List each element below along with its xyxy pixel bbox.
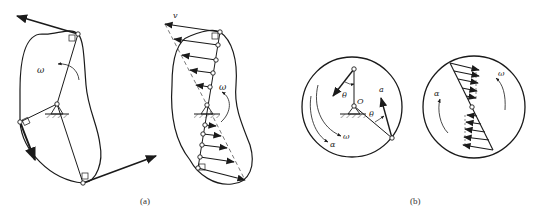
pin xyxy=(203,123,207,127)
acceleration-arrow xyxy=(458,79,478,83)
alpha-arrow xyxy=(310,96,328,142)
velocity-arrow-top xyxy=(17,16,78,34)
omega-label: ω xyxy=(343,132,350,141)
pin xyxy=(76,32,80,36)
kinematics-figure: ω v ω xyxy=(0,0,535,216)
panel-b-right-disk: ω α xyxy=(423,56,525,158)
omega-label: ω xyxy=(37,65,45,75)
velocity-arrow-bottom xyxy=(83,156,156,183)
alpha-arrow xyxy=(439,99,448,133)
acceleration-label: a xyxy=(379,85,384,94)
rigid-body-outline xyxy=(20,31,101,183)
pin xyxy=(81,181,85,185)
acceleration-arrow xyxy=(464,137,489,140)
pin xyxy=(196,166,200,170)
pin xyxy=(198,155,202,159)
pin xyxy=(216,43,220,47)
omega-arrow xyxy=(316,85,341,136)
pin xyxy=(18,120,22,124)
pin xyxy=(390,136,394,140)
figure-canvas: ω v ω xyxy=(0,0,535,216)
velocity-arrow xyxy=(200,157,234,162)
omega-arrow xyxy=(496,78,505,110)
radius-line-top xyxy=(57,34,78,104)
body-axis-line xyxy=(198,32,220,168)
pin xyxy=(352,67,356,71)
velocity-arrow xyxy=(182,55,216,60)
right-angle-mark xyxy=(69,35,75,41)
acceleration-arrow xyxy=(454,71,479,76)
theta-label-2: θ xyxy=(369,110,374,119)
velocity-arrow xyxy=(190,70,213,73)
acceleration-arrow xyxy=(463,145,493,150)
caption-b: (b) xyxy=(410,196,421,206)
velocity-arrow-left xyxy=(21,124,35,160)
pin xyxy=(211,71,215,75)
theta-arc xyxy=(345,82,354,84)
pin xyxy=(208,85,212,89)
pin xyxy=(214,58,218,62)
alpha-label: α xyxy=(330,140,336,149)
pin xyxy=(352,104,356,108)
acceleration-arrow xyxy=(462,88,477,91)
pin xyxy=(201,132,205,136)
acceleration-arrow-a xyxy=(381,98,392,138)
velocity-arrow xyxy=(202,145,227,148)
rigid-body-outline xyxy=(172,30,253,184)
theta-label-1: θ xyxy=(342,91,347,100)
panel-a-right-body: v ω xyxy=(165,11,252,184)
omega-arrow xyxy=(221,92,229,122)
panel-b-left-disk: θ a θ O ω α xyxy=(302,57,402,157)
velocity-arrow xyxy=(203,134,221,136)
alpha-label: α xyxy=(434,89,440,98)
velocity-label: v xyxy=(173,11,178,20)
panel-a-left-body: ω xyxy=(17,16,156,185)
acceleration-arrow xyxy=(450,63,479,70)
caption-a: (a) xyxy=(140,196,150,206)
right-angle-mark xyxy=(82,173,88,179)
pin xyxy=(205,103,209,107)
theta-arc xyxy=(375,116,384,122)
acceleration-arrow xyxy=(465,129,485,132)
pin xyxy=(200,143,204,147)
omega-label: ω xyxy=(498,69,505,78)
right-angle-mark xyxy=(212,33,218,39)
pin xyxy=(55,102,59,106)
center-pin xyxy=(470,105,474,109)
omega-label: ω xyxy=(219,82,227,92)
pin xyxy=(218,30,222,34)
velocity-arrow xyxy=(165,24,220,32)
center-label: O xyxy=(357,97,364,106)
